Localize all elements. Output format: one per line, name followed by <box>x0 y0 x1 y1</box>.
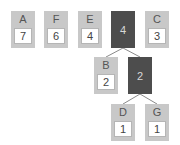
node-symbol: B <box>94 59 118 71</box>
node-c: C 3 <box>145 11 169 48</box>
node-weight: 3 <box>148 28 166 44</box>
node-weight: 7 <box>14 28 32 44</box>
node-symbol: C <box>145 13 169 25</box>
node-symbol: A <box>11 13 35 25</box>
node-f: F 6 <box>44 11 68 48</box>
node-weight: 2 <box>97 74 115 90</box>
node-internal-4: 4 <box>111 11 135 48</box>
edge-n2-g <box>140 94 157 104</box>
node-weight: 4 <box>81 28 99 44</box>
node-a: A 7 <box>11 11 35 48</box>
node-symbol: E <box>78 13 102 25</box>
node-e: E 4 <box>78 11 102 48</box>
edge-n4-b <box>106 48 123 57</box>
node-g: G 1 <box>145 104 169 141</box>
node-weight: 1 <box>148 121 166 137</box>
node-b: B 2 <box>94 57 118 94</box>
node-symbol: D <box>111 106 135 118</box>
node-d: D 1 <box>111 104 135 141</box>
node-internal-2: 2 <box>128 57 152 94</box>
node-weight: 6 <box>47 28 65 44</box>
node-symbol: F <box>44 13 68 25</box>
node-weight: 2 <box>128 69 152 83</box>
node-symbol: G <box>145 106 169 118</box>
edge-n2-d <box>123 94 140 104</box>
node-weight: 4 <box>111 23 135 37</box>
node-weight: 1 <box>114 121 132 137</box>
edge-n4-n2 <box>123 48 140 57</box>
